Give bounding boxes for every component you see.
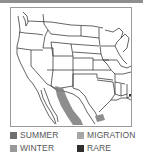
legend-label: MIGRATION — [87, 130, 135, 140]
range-map — [10, 7, 132, 127]
legend-label: SUMMER — [20, 130, 58, 140]
rare-swatch-icon — [77, 145, 84, 152]
rare-sighting-point — [129, 94, 131, 96]
map-legend: SUMMER MIGRATION WINTER RARE — [10, 130, 136, 154]
legend-label: RARE — [87, 143, 111, 153]
us-states-map — [11, 8, 133, 128]
winter-swatch-icon — [10, 145, 17, 152]
legend-item-summer: SUMMER — [10, 130, 58, 140]
legend-item-winter: WINTER — [10, 143, 54, 153]
summer-range-area — [55, 86, 83, 125]
legend-item-rare: RARE — [77, 143, 111, 153]
legend-label: WINTER — [20, 143, 54, 153]
legend-item-migration: MIGRATION — [77, 130, 135, 140]
top-bar — [0, 0, 143, 3]
migration-swatch-icon — [77, 132, 84, 139]
summer-swatch-icon — [10, 132, 17, 139]
